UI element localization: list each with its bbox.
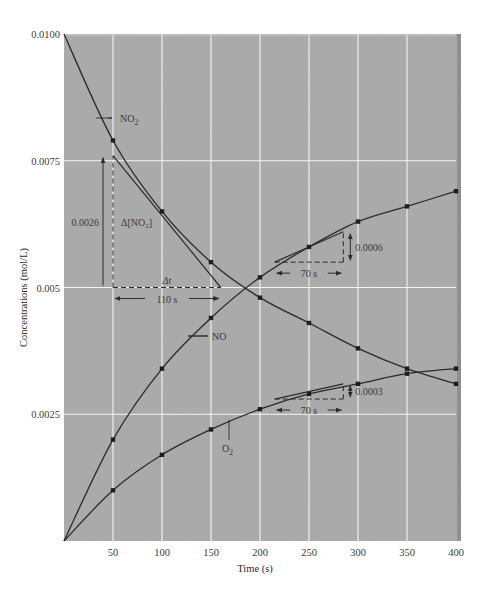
x-axis-label: Time (s) [237,563,273,575]
x-tick-label: 300 [350,547,366,558]
data-point [307,321,311,325]
delta-x-value: 70 s [301,268,318,279]
y-tick-label: 0.0025 [31,409,60,420]
data-point [405,204,409,208]
plot-right-shadow [457,34,461,541]
data-point [111,138,115,142]
data-point [258,275,262,279]
data-point [209,316,213,320]
data-point [405,371,409,375]
data-point [356,219,360,223]
x-tick-label: 400 [448,547,464,558]
y-axis-ticks: 0.00250.0050.00750.0100 [31,29,60,420]
y-tick-label: 0.0075 [31,156,60,167]
data-point [258,407,262,411]
delta-x-label: Δt [162,275,172,286]
x-tick-label: 50 [108,547,119,558]
plot-area: 0.0026Δ[NO₂]110 sΔt0.000670 s0.000370 s … [64,34,461,541]
delta-y-value: 0.0026 [72,217,100,228]
data-point [111,488,115,492]
data-point [111,437,115,441]
delta-y-label: Δ[NO₂] [121,217,152,228]
x-tick-label: 150 [203,547,219,558]
x-tick-label: 250 [301,547,317,558]
data-point [258,295,262,299]
data-point [307,245,311,249]
data-point [307,392,311,396]
delta-y-value: 0.0003 [355,386,383,397]
data-point [209,427,213,431]
x-tick-label: 100 [154,547,170,558]
data-point [160,366,164,370]
y-tick-label: 0.0100 [31,29,60,40]
x-tick-label: 200 [252,547,268,558]
data-point [454,382,458,386]
data-point [160,209,164,213]
series-label-no: NO [212,331,226,342]
data-point [356,346,360,350]
x-axis-ticks: 50100150200250300350400 [108,547,464,558]
data-point [356,382,360,386]
y-axis-label: Concentrations (mol/L) [18,248,30,347]
x-tick-label: 350 [399,547,415,558]
data-point [405,366,409,370]
data-point [454,366,458,370]
y-tick-label: 0.005 [36,283,60,294]
delta-x-value: 70 s [301,405,318,416]
data-point [209,260,213,264]
data-point [454,189,458,193]
delta-y-value: 0.0006 [355,242,383,253]
concentration-time-chart: 0.0026Δ[NO₂]110 sΔt0.000670 s0.000370 s … [0,0,486,596]
delta-x-value: 110 s [156,294,177,305]
data-point [160,453,164,457]
